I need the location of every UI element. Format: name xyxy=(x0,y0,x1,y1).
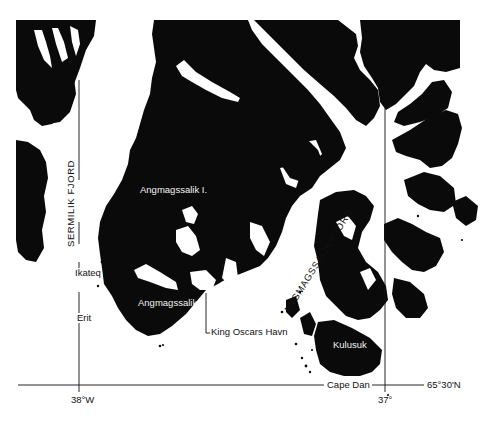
label-erit: Erit xyxy=(76,313,92,323)
land-west xyxy=(16,20,96,262)
label-cape-dan: Cape Dan xyxy=(325,380,372,390)
label-kulusuk: Kulusuk xyxy=(333,340,367,350)
label-angmagssalik-town: Angmagssalik xyxy=(138,298,197,308)
label-ikateq: Ikateq xyxy=(74,268,102,278)
label-lon-38w: 38°W xyxy=(71,395,94,405)
label-angmagssalik-island: Angmagssalik I. xyxy=(140,185,207,195)
label-sermilik-fjord: SERMILIK FJORD xyxy=(66,160,76,247)
label-king-oscars-havn: King Oscars Havn xyxy=(211,327,288,337)
land-north-east xyxy=(360,20,478,226)
label-lon-37: 37° xyxy=(378,395,392,405)
label-lat-65-30n: 65°30'N xyxy=(427,380,461,390)
